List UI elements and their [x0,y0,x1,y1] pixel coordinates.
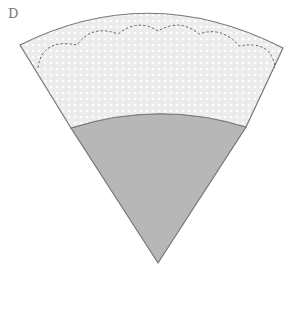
cone-diagram [0,0,286,315]
band-piece [20,13,283,128]
cone-piece [71,114,246,263]
